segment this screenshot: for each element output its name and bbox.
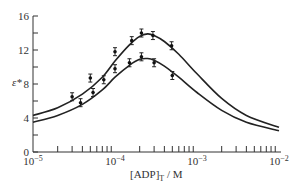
x-tick-label: 10−3 bbox=[187, 154, 207, 167]
x-axis-label: [ADP]T / M bbox=[130, 168, 183, 183]
data-point bbox=[113, 48, 117, 56]
fit-curve bbox=[33, 34, 279, 128]
data-points bbox=[70, 29, 174, 107]
y-tick-label: 12 bbox=[18, 44, 29, 56]
y-tick-label: 8 bbox=[24, 78, 30, 90]
data-point bbox=[113, 65, 117, 73]
data-point bbox=[151, 32, 155, 40]
x-tick-labels: 10−510−410−310−2 bbox=[23, 154, 289, 167]
x-tick-label: 10−4 bbox=[105, 154, 125, 167]
fit-curve bbox=[33, 58, 279, 130]
x-tick-label: 10−5 bbox=[23, 154, 43, 167]
x-tick-label: 10−2 bbox=[269, 154, 289, 167]
data-point bbox=[88, 74, 92, 82]
chart: 0481216 10−510−410−310−2 ε* [ADP]T / M bbox=[0, 0, 305, 185]
y-axis-label: ε* bbox=[12, 76, 22, 88]
fit-curves bbox=[33, 34, 279, 131]
y-tick-label: 4 bbox=[24, 112, 30, 124]
y-tick-label: 16 bbox=[18, 10, 30, 22]
